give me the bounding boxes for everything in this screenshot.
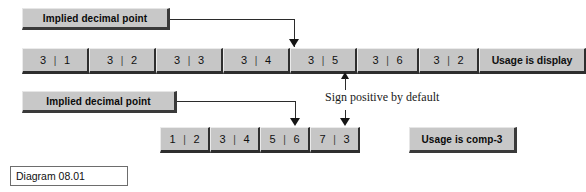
byte-separator: | [318, 55, 329, 66]
byte-separator: | [229, 134, 240, 145]
byte-separator: | [117, 55, 128, 66]
byte-separator: | [329, 134, 340, 145]
byte-digit-left: 1 [166, 133, 179, 145]
usage-display-cell: Usage is display [479, 48, 586, 74]
byte-cell: 3 | 3 [156, 48, 223, 74]
byte-cell-sign: 3 | 2 [419, 48, 479, 74]
byte-digit-left: 3 [305, 54, 318, 66]
byte-separator: | [184, 55, 195, 66]
annotation-sign-positive: Sign positive by default [325, 90, 439, 105]
byte-digit-right: 3 [195, 54, 208, 66]
byte-digit-right: 3 [340, 133, 353, 145]
callout-implied-decimal-point-top: Implied decimal point [22, 8, 170, 30]
byte-cell: 3 | 2 [89, 48, 156, 74]
byte-cell: 3 | 5 [290, 48, 357, 74]
byte-cell: 3 | 6 [357, 48, 419, 74]
byte-digit-left: 3 [104, 54, 117, 66]
leader-line-sign-vertical [345, 78, 346, 90]
byte-digit-left: 3 [238, 54, 251, 66]
byte-digit-left: 3 [369, 54, 382, 66]
usage-display-label: Usage is display [492, 54, 573, 66]
byte-digit-left: 3 [430, 54, 443, 66]
byte-digit-right: 6 [290, 133, 303, 145]
byte-digit-right: 5 [329, 54, 342, 66]
byte-separator: | [179, 134, 190, 145]
byte-digit-right: 2 [454, 54, 467, 66]
byte-cell: 3 | 4 [223, 48, 290, 74]
byte-digit-right: 4 [240, 133, 253, 145]
byte-digit-left: 7 [316, 133, 329, 145]
usage-comp3-label: Usage is comp-3 [422, 134, 503, 145]
arrow-down-icon-bottom [290, 118, 300, 126]
byte-digit-right: 2 [190, 133, 203, 145]
byte-digit-left: 3 [171, 54, 184, 66]
callout-implied-decimal-point-bottom: Implied decimal point [22, 91, 177, 113]
arrow-down-icon-top [289, 39, 299, 47]
byte-digit-left: 3 [216, 133, 229, 145]
callout-label-top: Implied decimal point [43, 13, 147, 24]
byte-row-comp3: 1 | 2 3 | 4 5 | 6 7 | 3 [160, 127, 360, 153]
diagram-caption-label: Diagram 08.01 [16, 170, 85, 182]
byte-separator: | [50, 55, 61, 66]
byte-row-display: 3 | 1 3 | 2 3 | 3 3 | 4 3 | 5 3 | 6 [22, 48, 586, 74]
byte-digit-right: 1 [61, 54, 74, 66]
byte-digit-right: 4 [262, 54, 275, 66]
byte-digit-left: 3 [37, 54, 50, 66]
byte-separator: | [382, 55, 393, 66]
diagram-caption: Diagram 08.01 [10, 166, 128, 186]
leader-line-top-horizontal [170, 19, 295, 20]
byte-separator: | [251, 55, 262, 66]
usage-comp3-cell: Usage is comp-3 [409, 127, 517, 153]
byte-digit-left: 5 [266, 133, 279, 145]
leader-line-bottom-horizontal [177, 101, 296, 102]
callout-label-bottom: Implied decimal point [46, 96, 150, 107]
byte-cell: 1 | 2 [160, 127, 210, 153]
byte-separator: | [443, 55, 454, 66]
byte-cell: 3 | 1 [22, 48, 89, 74]
byte-cell-sign: 7 | 3 [310, 127, 360, 153]
arrow-down-icon-comp3-sign [340, 118, 350, 126]
byte-digit-right: 6 [393, 54, 406, 66]
byte-cell: 3 | 4 [210, 127, 260, 153]
byte-digit-right: 2 [128, 54, 141, 66]
byte-separator: | [279, 134, 290, 145]
byte-cell: 5 | 6 [260, 127, 310, 153]
